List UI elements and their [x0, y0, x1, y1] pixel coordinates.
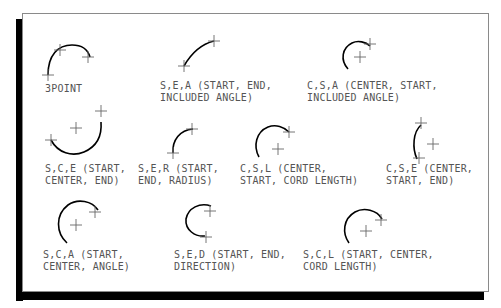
arc-sca-icon — [59, 201, 102, 243]
label-sea: S,E,A (START, END,INCLUDED ANGLE) — [160, 80, 272, 104]
arc-3point-icon — [42, 44, 94, 81]
label-cse: C,S,E (CENTER,START, END) — [386, 163, 473, 187]
label-csa: C,S,A (CENTER, START,INCLUDED ANGLE) — [307, 80, 438, 104]
arc-scl-icon — [345, 210, 387, 243]
arc-csa-icon — [343, 38, 376, 69]
label-ser: S,E,R (START,END, RADIUS) — [138, 163, 219, 187]
label-sca: S,C,A (START,CENTER, ANGLE) — [43, 249, 130, 273]
label-3point: 3POINT — [45, 83, 82, 95]
label-csl: C,S,L (CENTER,START, CORD LENGTH) — [240, 163, 358, 187]
arc-sed-icon — [186, 205, 216, 243]
arc-sce-icon — [45, 105, 107, 154]
arc-ser-icon — [167, 123, 198, 159]
arc-sea-icon — [178, 35, 220, 72]
label-sed: S,E,D (START, END,DIRECTION) — [174, 249, 286, 273]
arc-csl-icon — [256, 126, 295, 157]
arc-cse-icon — [413, 117, 439, 164]
label-sce: S,C,E (START,CENTER, END) — [45, 163, 126, 187]
label-scl: S,C,L (START, CENTER,CORD LENGTH) — [303, 249, 434, 273]
